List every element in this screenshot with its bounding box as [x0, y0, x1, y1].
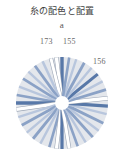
center-hub	[55, 96, 69, 110]
radial-spoke-wheel	[16, 56, 108, 152]
annotation-label-173: 173	[40, 37, 53, 46]
figure-title: 糸の配色と配置	[0, 4, 124, 17]
figure-panel: 糸の配色と配置 a 173 155 156	[0, 0, 124, 159]
panel-label-a: a	[0, 20, 124, 30]
annotation-label-155: 155	[63, 37, 76, 46]
radial-spoke-svg	[16, 56, 108, 152]
